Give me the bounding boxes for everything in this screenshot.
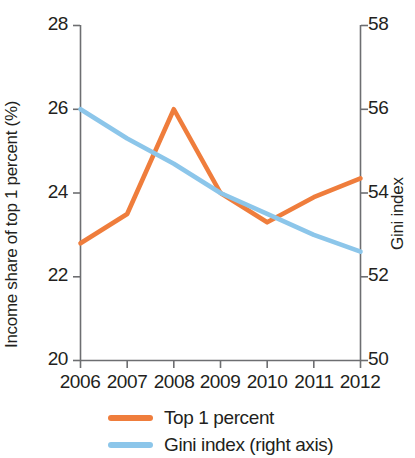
series-line-gini-index-right-axis: [81, 109, 361, 251]
legend-label-gini-index: Gini index (right axis): [164, 434, 333, 456]
legend-label-top-1-percent: Top 1 percent: [164, 407, 274, 429]
legend-item-top-1-percent: Top 1 percent: [0, 404, 415, 431]
legend-item-gini-index: Gini index (right axis): [0, 431, 415, 458]
chart-figure: Income share of top 1 percent (%) Gini i…: [0, 0, 415, 458]
plot-area: [0, 0, 415, 458]
legend-swatch-gini-index: [108, 442, 153, 448]
data-series-layer: [81, 109, 361, 251]
series-line-top-1-percent: [81, 109, 361, 243]
chart-legend: Top 1 percent Gini index (right axis): [0, 404, 415, 458]
left-axis-ticks: [73, 26, 80, 361]
right-axis-ticks: [361, 26, 368, 361]
legend-swatch-top-1-percent: [108, 415, 153, 421]
